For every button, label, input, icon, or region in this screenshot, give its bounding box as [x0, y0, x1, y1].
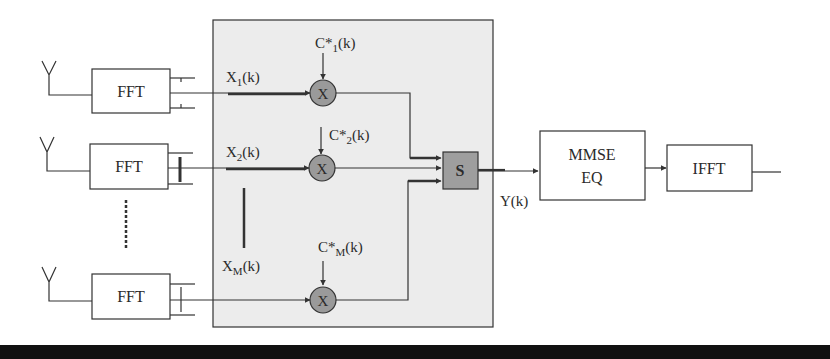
multiplier-1: X [310, 80, 336, 106]
fft-label-1: FFT [117, 83, 145, 100]
fft-label-2: FFT [115, 158, 143, 175]
multiplier-m: X [310, 287, 336, 313]
diagram-canvas: FFT FFT FFT [0, 0, 830, 359]
mmse-equalizer-block: MMSE EQ [540, 131, 645, 200]
bottom-bar [0, 345, 830, 359]
fft-block-m: FFT [92, 274, 170, 319]
fft-label-m: FFT [117, 288, 145, 305]
equalizer-line1: MMSE [568, 146, 615, 163]
equalizer-line2: EQ [581, 169, 603, 186]
ifft-block: IFFT [667, 145, 752, 191]
antenna-2-icon [40, 137, 90, 171]
output-signal-label: Y(k) [500, 193, 528, 210]
multiplier-2: X [309, 155, 335, 181]
sum-label: S [456, 162, 465, 179]
svg-text:X: X [317, 161, 328, 177]
svg-text:X: X [318, 293, 329, 309]
antenna-1-icon [42, 61, 92, 95]
ifft-label: IFFT [693, 160, 726, 177]
sum-block: S [443, 152, 478, 189]
fft-block-2: FFT [90, 144, 168, 189]
antenna-m-icon [42, 267, 92, 301]
svg-text:X: X [318, 86, 329, 102]
fft-block-1: FFT [92, 69, 170, 113]
